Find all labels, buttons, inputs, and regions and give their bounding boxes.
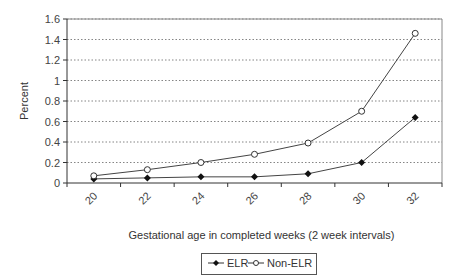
line-chart: 00.20.40.60.811.21.41.620222426283032Per…: [0, 0, 461, 279]
y-tick-label: 0.6: [45, 116, 60, 128]
y-tick-label: 0.4: [45, 136, 60, 148]
data-point: [197, 173, 204, 180]
series-line-elr: [94, 117, 415, 178]
y-axis-title: Percent: [18, 82, 30, 120]
data-point: [251, 173, 258, 180]
filled-diamond-marker-icon: [208, 258, 224, 268]
x-tick-label: 22: [136, 190, 153, 207]
legend-item-elr: ELR: [208, 257, 248, 269]
x-tick-label: 30: [350, 190, 367, 207]
y-tick-label: 0.8: [45, 95, 60, 107]
y-tick-label: 0.2: [45, 157, 60, 169]
data-point: [144, 174, 151, 181]
series: [90, 30, 418, 182]
x-tick-label: 28: [297, 190, 314, 207]
y-tick-label: 1.6: [45, 13, 60, 25]
axis-labels: 00.20.40.60.811.21.41.620222426283032Per…: [18, 13, 421, 241]
y-tick-label: 1.2: [45, 54, 60, 66]
legend-label-elr: ELR: [227, 257, 248, 269]
data-point: [305, 140, 311, 146]
axes: [63, 19, 442, 187]
y-tick-label: 0: [54, 177, 60, 189]
x-tick-label: 26: [243, 190, 260, 207]
legend: ELR Non-ELR: [201, 253, 317, 275]
y-tick-label: 1: [54, 75, 60, 87]
x-tick-label: 32: [404, 190, 421, 207]
x-axis-title: Gestational age in completed weeks (2 we…: [129, 229, 395, 241]
open-circle-marker-icon: [248, 258, 264, 268]
data-point: [91, 173, 97, 179]
data-point: [198, 160, 204, 166]
legend-item-non-elr: Non-ELR: [248, 257, 312, 269]
x-tick-label: 20: [82, 190, 99, 207]
data-point: [412, 30, 418, 36]
x-tick-label: 24: [190, 190, 207, 207]
gridlines: [67, 19, 442, 163]
data-point: [144, 167, 150, 173]
data-point: [252, 151, 258, 157]
data-point: [359, 108, 365, 114]
y-tick-label: 1.4: [45, 34, 60, 46]
data-point: [305, 170, 312, 177]
legend-label-non-elr: Non-ELR: [267, 257, 312, 269]
